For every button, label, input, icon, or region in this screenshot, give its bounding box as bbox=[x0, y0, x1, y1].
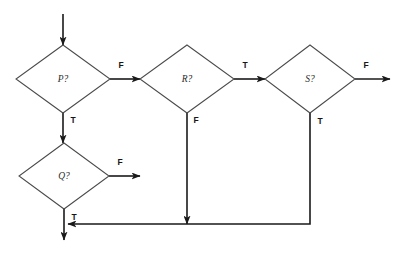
edge-label-r-true-to-s: T bbox=[242, 60, 248, 70]
edges-layer bbox=[63, 14, 390, 240]
edge-label-s-false-exit: F bbox=[363, 60, 368, 70]
edge-label-q-false-exit: F bbox=[117, 157, 122, 167]
edge-label-p-true-to-q: T bbox=[70, 115, 76, 125]
edge-label-r-false-to-join: F bbox=[193, 115, 198, 125]
decision-node-r[interactable]: R? bbox=[140, 45, 234, 113]
node-label-r: R? bbox=[181, 74, 193, 84]
edge-s-true-to-join bbox=[68, 112, 310, 224]
node-label-s: S? bbox=[305, 74, 315, 84]
node-label-q: Q? bbox=[58, 171, 70, 181]
edge-label-s-true-to-join: T bbox=[317, 116, 323, 126]
node-label-p: P? bbox=[57, 74, 69, 84]
edge-label-p-false-to-r: F bbox=[118, 60, 123, 70]
nodes-layer: P?Q?R?S? bbox=[16, 45, 355, 209]
decision-node-q[interactable]: Q? bbox=[19, 143, 109, 209]
flowchart-canvas: P?Q?R?S? FTFTTFFT bbox=[0, 0, 400, 262]
flowchart-svg: P?Q?R?S? FTFTTFFT bbox=[0, 0, 400, 262]
edge-label-q-true-exit: T bbox=[71, 212, 77, 222]
decision-node-p[interactable]: P? bbox=[16, 45, 110, 113]
decision-node-s[interactable]: S? bbox=[265, 45, 355, 113]
